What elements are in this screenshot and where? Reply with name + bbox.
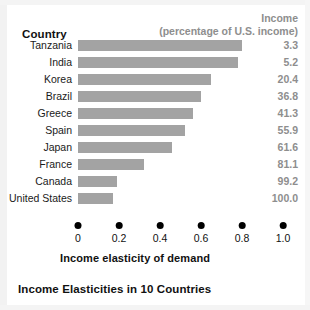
- x-axis-tick-dot: [115, 222, 122, 229]
- row-value-income: 61.6: [252, 141, 298, 153]
- bar: [78, 74, 211, 85]
- bar: [78, 142, 172, 153]
- x-axis-tick: 0.2: [112, 222, 127, 244]
- x-axis-title: Income elasticity of demand: [60, 252, 210, 264]
- column-header-income-line1: Income: [159, 12, 298, 25]
- bar: [78, 40, 242, 51]
- bar: [78, 57, 238, 68]
- x-axis-tick-label: 0.8: [235, 232, 250, 244]
- row-label-country: India: [0, 56, 72, 68]
- x-axis-tick-dot: [156, 222, 163, 229]
- x-axis: 00.20.40.60.81.0: [78, 222, 283, 256]
- row-value-income: 41.3: [252, 107, 298, 119]
- bar: [78, 108, 193, 119]
- row-label-country: Tanzania: [0, 39, 72, 51]
- row-value-income: 99.2: [252, 175, 298, 187]
- x-axis-tick-label: 1.0: [276, 232, 291, 244]
- table-row: Korea20.4: [0, 72, 310, 89]
- row-label-country: Greece: [0, 107, 72, 119]
- x-axis-tick: 1.0: [276, 222, 291, 244]
- bar: [78, 159, 144, 170]
- chart-figure: Country Income (percentage of U.S. incom…: [0, 0, 310, 310]
- x-axis-tick-dot: [279, 222, 286, 229]
- column-header-income: Income (percentage of U.S. income): [159, 12, 298, 38]
- x-axis-tick: 0.4: [153, 222, 168, 244]
- page-edge-top: [0, 0, 310, 5]
- x-axis-tick: 0.8: [235, 222, 250, 244]
- x-axis-tick-dot: [238, 222, 245, 229]
- x-axis-tick-label: 0.2: [112, 232, 127, 244]
- row-value-income: 100.0: [252, 192, 298, 204]
- page-edge-bottom: [0, 305, 310, 310]
- row-label-country: Japan: [0, 141, 72, 153]
- row-value-income: 36.8: [252, 90, 298, 102]
- x-axis-tick: 0: [75, 222, 82, 244]
- x-axis-tick: 0.6: [194, 222, 209, 244]
- x-axis-tick-dot: [75, 222, 82, 229]
- table-row: Spain55.9: [0, 123, 310, 140]
- row-label-country: Spain: [0, 124, 72, 136]
- table-row: Canada99.2: [0, 174, 310, 191]
- row-value-income: 3.3: [252, 39, 298, 51]
- row-label-country: France: [0, 158, 72, 170]
- x-axis-tick-label: 0.4: [153, 232, 168, 244]
- x-axis-tick-label: 0.6: [194, 232, 209, 244]
- chart-header: Country Income (percentage of U.S. incom…: [22, 12, 298, 40]
- chart-rows: Tanzania3.3India5.2Korea20.4Brazil36.8Gr…: [0, 38, 310, 208]
- table-row: France81.1: [0, 157, 310, 174]
- row-value-income: 20.4: [252, 73, 298, 85]
- table-row: Brazil36.8: [0, 89, 310, 106]
- bar: [78, 91, 201, 102]
- row-value-income: 81.1: [252, 158, 298, 170]
- bar: [78, 125, 185, 136]
- row-value-income: 55.9: [252, 124, 298, 136]
- x-axis-tick-label: 0: [75, 232, 82, 244]
- row-label-country: Brazil: [0, 90, 72, 102]
- table-row: Greece41.3: [0, 106, 310, 123]
- x-axis-tick-dot: [197, 222, 204, 229]
- table-row: United States100.0: [0, 191, 310, 208]
- table-row: Japan61.6: [0, 140, 310, 157]
- table-row: Tanzania3.3: [0, 38, 310, 55]
- row-label-country: Canada: [0, 175, 72, 187]
- row-value-income: 5.2: [252, 56, 298, 68]
- chart-caption: Income Elasticities in 10 Countries: [18, 283, 211, 295]
- column-header-income-line2: (percentage of U.S. income): [159, 25, 298, 38]
- table-row: India5.2: [0, 55, 310, 72]
- row-label-country: Korea: [0, 73, 72, 85]
- bar: [78, 193, 113, 204]
- row-label-country: United States: [0, 192, 72, 204]
- bar: [78, 176, 117, 187]
